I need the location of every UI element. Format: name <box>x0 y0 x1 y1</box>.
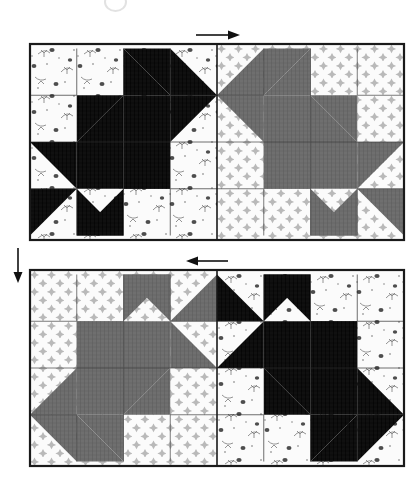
block-bottom-left <box>30 270 217 466</box>
arrow-left-down <box>14 248 23 283</box>
quilt-illustration <box>0 0 419 487</box>
arrow-top-right <box>196 31 240 40</box>
bottom-row <box>30 270 404 466</box>
quilt-diagram <box>0 0 419 487</box>
arrow-middle-left <box>186 257 228 266</box>
block-top-right <box>217 44 404 240</box>
top-row <box>30 44 404 240</box>
block-top-left <box>30 44 217 240</box>
block-bottom-right <box>217 270 404 466</box>
